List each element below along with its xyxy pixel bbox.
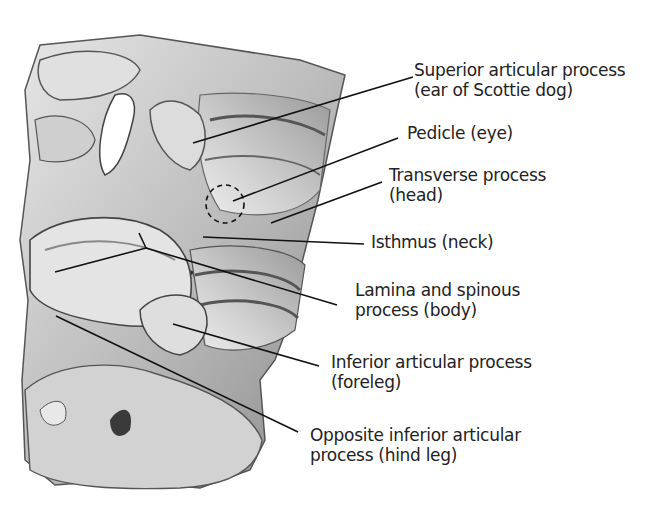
label-opposite-inferior-articular-process: Opposite inferior articular process (hin… (310, 425, 521, 465)
label-pedicle: Pedicle (eye) (407, 123, 513, 143)
label-transverse-process: Transverse process (head) (389, 165, 546, 205)
label-superior-articular-process: Superior articular process (ear of Scott… (414, 60, 625, 100)
label-isthmus: Isthmus (neck) (371, 232, 493, 252)
label-lamina-spinous-process: Lamina and spinous process (body) (355, 280, 520, 320)
scottie-dog-diagram: Superior articular process (ear of Scott… (0, 0, 671, 506)
label-inferior-articular-process: Inferior articular process (foreleg) (331, 352, 532, 392)
